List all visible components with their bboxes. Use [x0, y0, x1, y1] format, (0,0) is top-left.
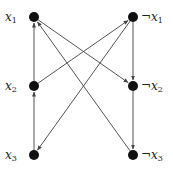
variable-subscript: 1 [12, 16, 17, 25]
node-x1 [29, 12, 39, 22]
variable-subscript: 1 [158, 16, 163, 25]
negation-symbol: ¬ [141, 10, 151, 24]
edges-group [34, 20, 133, 151]
node-label-not-x1: ¬x1 [141, 11, 163, 27]
negation-symbol: ¬ [141, 148, 151, 162]
negation-symbol: ¬ [141, 79, 151, 93]
variable-name: x [151, 10, 158, 24]
node-x2 [29, 81, 39, 91]
node-label-not-x3: ¬x3 [141, 149, 163, 165]
node-x3 [29, 150, 39, 160]
variable-subscript: 3 [12, 154, 17, 163]
node-nx2 [128, 81, 138, 91]
node-label-x1: x1 [5, 11, 17, 27]
variable-subscript: 3 [158, 154, 163, 163]
variable-name: x [151, 79, 158, 93]
node-nx1 [128, 12, 138, 22]
node-label-not-x2: ¬x2 [141, 80, 163, 96]
variable-subscript: 2 [12, 85, 17, 94]
variable-name: x [5, 79, 12, 93]
variable-name: x [151, 148, 158, 162]
node-nx3 [128, 150, 138, 160]
node-label-x2: x2 [5, 80, 17, 96]
variable-name: x [5, 148, 12, 162]
variable-name: x [5, 10, 12, 24]
node-label-x3: x3 [5, 149, 17, 165]
variable-subscript: 2 [158, 85, 163, 94]
